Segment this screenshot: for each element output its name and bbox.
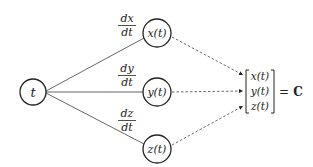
svg-text:dx: dx bbox=[120, 12, 134, 25]
svg-text:dt: dt bbox=[121, 76, 133, 89]
matrix-entry-x: x(t) bbox=[251, 70, 269, 82]
svg-text:dt: dt bbox=[121, 26, 133, 39]
left-bracket bbox=[246, 70, 249, 113]
node-y: y(t) bbox=[143, 78, 171, 106]
fraction-dy-dt: dy dt bbox=[118, 62, 136, 89]
constant-c: C bbox=[293, 85, 303, 99]
node-y-label: y(t) bbox=[146, 86, 166, 99]
node-t-label: t bbox=[30, 85, 36, 100]
right-bracket bbox=[271, 70, 274, 113]
node-x: x(t) bbox=[143, 19, 171, 47]
fraction-dz-dt: dz dt bbox=[118, 107, 136, 134]
node-z-label: z(t) bbox=[147, 143, 167, 156]
equals-sign: = bbox=[279, 85, 289, 99]
node-x-label: x(t) bbox=[147, 27, 166, 40]
state-vector-matrix: x(t) y(t) z(t) bbox=[246, 70, 274, 113]
svg-text:dz: dz bbox=[121, 107, 134, 120]
node-z: z(t) bbox=[143, 135, 171, 163]
diagram-canvas: t dx dt dy dt dz dt x(t) y(t) z(t) x(t) … bbox=[0, 0, 313, 167]
matrix-entry-y: y(t) bbox=[250, 85, 269, 97]
svg-text:dy: dy bbox=[120, 62, 134, 75]
dashed-arrow-z bbox=[172, 106, 243, 145]
fraction-dx-dt: dx dt bbox=[118, 12, 136, 39]
dashed-arrow-x bbox=[172, 37, 243, 75]
svg-text:dt: dt bbox=[121, 121, 133, 134]
dashed-arrow-y bbox=[172, 91, 243, 92]
matrix-entry-z: z(t) bbox=[250, 100, 269, 112]
node-t: t bbox=[20, 79, 46, 105]
